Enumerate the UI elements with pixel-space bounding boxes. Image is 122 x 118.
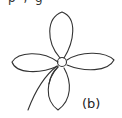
petal-top <box>50 12 73 58</box>
flower-drawing <box>0 0 122 118</box>
panel-label: (b) <box>82 96 100 111</box>
petal-bottom <box>48 67 69 110</box>
petal-left <box>12 54 58 72</box>
petal-right <box>67 53 114 70</box>
flower-center <box>58 58 67 67</box>
